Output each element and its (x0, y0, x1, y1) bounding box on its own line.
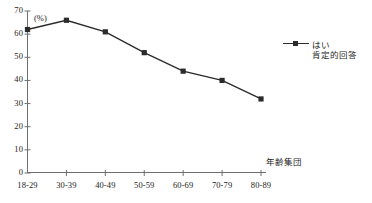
x-axis-tick-label: 80-89 (241, 180, 281, 190)
y-axis-tick-label: 50 (5, 51, 23, 61)
data-point-marker (181, 69, 186, 74)
data-point-marker (142, 50, 147, 55)
series-line-hai (28, 20, 262, 99)
chart-legend: はい 肯定的回答 (283, 38, 357, 61)
legend-item-label: はい (312, 38, 330, 50)
data-point-marker (64, 18, 69, 23)
y-axis-tick-label: 10 (5, 144, 23, 154)
data-point-marker (103, 29, 108, 34)
x-axis-tick-label: 40-49 (85, 180, 125, 190)
y-axis-unit-label: (%) (34, 13, 47, 23)
data-point-marker (258, 96, 263, 101)
y-axis-tick-label: 20 (5, 121, 23, 131)
x-axis-tick-label: 50-59 (124, 180, 164, 190)
y-axis-tick-label: 60 (5, 28, 23, 38)
x-axis-title: 年齢集団 (266, 155, 302, 167)
series-markers-hai (25, 18, 264, 102)
x-axis-tick-label: 70-79 (202, 180, 242, 190)
x-axis-tick-label: 60-69 (163, 180, 203, 190)
x-axis-tick-label: 18-29 (8, 180, 48, 190)
legend-item-hai: はい (283, 38, 330, 49)
y-axis-tick-label: 70 (5, 5, 23, 15)
y-axis-tick-label: 0 (5, 167, 23, 177)
x-axis-tick-label: 30-39 (46, 180, 86, 190)
legend-line-marker-icon (283, 39, 309, 48)
legend-item-sublabel: 肯定的回答 (312, 49, 357, 61)
line-chart-plot (0, 0, 372, 203)
data-point-marker (219, 78, 224, 83)
data-point-marker (25, 27, 30, 32)
y-axis-tick-label: 30 (5, 98, 23, 108)
chart-figure: 010203040506070 18-2930-3940-4950-5960-6… (0, 0, 372, 203)
y-axis-tick-label: 40 (5, 74, 23, 84)
